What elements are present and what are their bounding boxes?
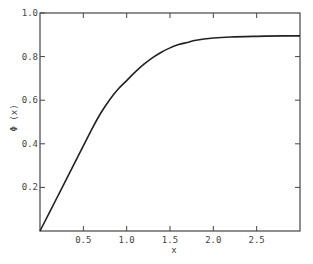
y-tick-label: 0.2 [22, 182, 38, 192]
tick-labels: 0.51.01.52.02.50.20.40.60.81.0 [22, 8, 265, 245]
y-axis-label: Φ (x) [9, 104, 19, 131]
x-axis-label: x [171, 245, 177, 255]
x-tick-label: 2.5 [249, 235, 265, 245]
x-tick-label: 1.0 [119, 235, 135, 245]
axis-ticks [40, 13, 300, 231]
plot-frame [40, 13, 300, 231]
x-tick-label: 2.0 [205, 235, 221, 245]
y-tick-label: 0.8 [22, 52, 38, 62]
x-tick-label: 1.5 [162, 235, 178, 245]
chart: 0.51.01.52.02.50.20.40.60.81.0 x Φ (x) [0, 0, 313, 264]
y-tick-label: 0.6 [22, 95, 38, 105]
x-tick-label: 0.5 [75, 235, 91, 245]
data-line [40, 36, 300, 231]
y-tick-label: 0.4 [22, 139, 38, 149]
y-tick-label: 1.0 [22, 8, 38, 18]
